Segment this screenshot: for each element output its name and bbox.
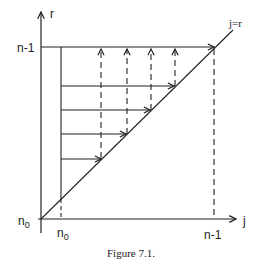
x-tick-n-1: n-1 — [204, 228, 222, 242]
y-tick-n-1: n-1 — [17, 41, 35, 55]
vertical-dashed-arrows — [101, 49, 175, 158]
horizontal-arrows — [61, 86, 174, 159]
figure-diagram: r j j=r n-1 n0 n0 n-1 Figure 7.1. — [0, 0, 264, 266]
r-axis-label: r — [50, 7, 54, 21]
y-tick-n0: n0 — [18, 214, 30, 230]
j-axis-label: j — [242, 214, 246, 228]
x-tick-n0: n0 — [57, 226, 69, 242]
figure-caption: Figure 7.1. — [107, 247, 155, 259]
diagonal-label: j=r — [228, 17, 242, 29]
diagonal-line-j-equals-r — [41, 30, 233, 219]
